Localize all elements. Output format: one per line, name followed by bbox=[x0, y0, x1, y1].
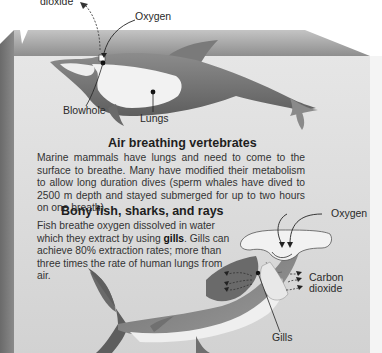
label-lungs: Lungs bbox=[140, 112, 169, 124]
heading-bony-fish: Bony fish, sharks, and rays bbox=[61, 204, 224, 218]
label-carbon-dioxide-top: dioxide bbox=[40, 0, 73, 7]
label-oxygen-top: Oxygen bbox=[135, 10, 171, 22]
label-oxygen-shark: Oxygen bbox=[331, 207, 367, 219]
water-left-face bbox=[0, 30, 14, 353]
heading-air-breathing: Air breathing vertebrates bbox=[108, 136, 257, 150]
text-bony-fish: Fish breathe oxygen dissolved in water w… bbox=[37, 220, 233, 283]
label-carbon-dioxide-shark: Carbondioxide bbox=[309, 272, 343, 294]
label-blowhole: Blowhole bbox=[63, 104, 106, 116]
term-gills: gills bbox=[163, 233, 184, 244]
breathing-diagram: dioxide Oxygen Blowhole Lungs Air breath… bbox=[0, 0, 382, 353]
label-gills: Gills bbox=[272, 331, 292, 343]
